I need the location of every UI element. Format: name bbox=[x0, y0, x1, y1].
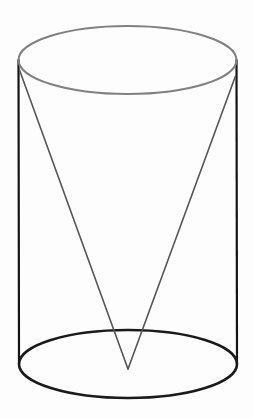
cylinder-right-side-line bbox=[237, 60, 238, 364]
cone-in-cylinder-diagram bbox=[0, 0, 253, 418]
diagram-background bbox=[0, 0, 253, 418]
figure-canvas bbox=[0, 0, 253, 418]
cylinder-left-side-line bbox=[19, 60, 20, 364]
